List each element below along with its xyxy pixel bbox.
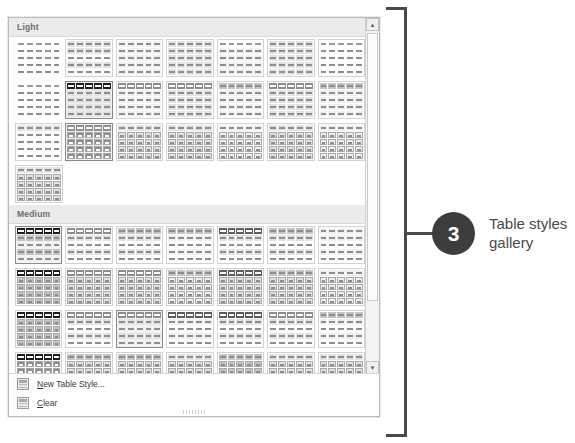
table-style-thumbnail[interactable] [15,165,63,203]
table-style-thumbnail[interactable] [318,352,365,374]
thumbnail-cell [254,132,262,138]
table-style-thumbnail[interactable] [318,81,365,119]
table-style-thumbnail[interactable] [318,226,365,264]
table-style-thumbnail[interactable] [318,310,365,348]
gallery-scroll-area[interactable]: LightMedium [9,18,365,374]
table-style-thumbnail[interactable] [217,39,264,77]
table-style-thumbnail[interactable] [267,81,314,119]
thumbnail-cell [94,242,102,248]
table-style-thumbnail[interactable] [267,39,314,77]
table-style-thumbnail[interactable] [65,352,112,374]
table-style-thumbnail[interactable] [267,310,314,348]
thumbnail-cell [228,41,236,47]
table-style-thumbnail[interactable] [217,123,264,161]
thumbnail-cell [17,153,25,159]
thumbnail-cell [278,277,286,283]
table-style-thumbnail[interactable] [15,310,62,348]
table-style-thumbnail[interactable] [15,226,62,264]
thumbnail-cell [219,153,227,159]
thumbnail-cell [118,277,126,283]
table-style-thumbnail[interactable] [116,268,163,306]
table-style-thumbnail[interactable] [65,81,112,119]
thumbnail-cell [305,284,313,290]
table-style-thumbnail[interactable] [116,39,163,77]
table-style-thumbnail[interactable] [217,81,264,119]
thumbnail-cell [287,146,295,152]
table-style-thumbnail[interactable] [217,268,264,306]
thumbnail-cell [195,270,203,276]
thumbnail-cell [204,90,212,96]
gallery-scrollbar[interactable]: ▲ ▼ [365,18,379,374]
thumbnail-cell [76,298,84,304]
table-style-thumbnail[interactable] [65,226,112,264]
table-style-thumbnail[interactable] [15,81,62,119]
scroll-up-arrow-icon[interactable]: ▲ [366,18,379,31]
table-style-thumbnail[interactable] [217,310,264,348]
table-style-thumbnail[interactable] [65,310,112,348]
thumbnail-cell [195,361,203,367]
table-style-thumbnail[interactable] [15,123,62,161]
thumbnail-cell [94,319,102,325]
resize-grip[interactable] [183,410,205,414]
thumbnail-cell [320,97,328,103]
table-style-thumbnail[interactable] [166,268,213,306]
thumbnail-cell [328,111,336,117]
thumbnail-cell [186,55,194,61]
thumbnail-cell [204,249,212,255]
thumbnail-cell [204,111,212,117]
thumbnail-cell [204,291,212,297]
table-style-thumbnail[interactable] [116,81,163,119]
table-style-thumbnail[interactable] [267,268,314,306]
thumbnail-cell [228,284,236,290]
table-style-thumbnail[interactable] [267,123,314,161]
thumbnail-cell [103,111,111,117]
table-style-thumbnail[interactable] [65,39,112,77]
table-style-thumbnail[interactable] [166,123,213,161]
thumbnail-cell [355,104,363,110]
table-style-thumbnail[interactable] [166,81,213,119]
thumbnail-cell [26,125,34,131]
table-style-thumbnail[interactable] [116,310,163,348]
table-style-thumbnail[interactable] [15,268,62,306]
thumbnail-cell [53,104,61,110]
thumbnail-cell [44,174,52,180]
table-style-thumbnail[interactable] [15,352,62,374]
thumbnail-cell [236,270,244,276]
thumbnail-cell [26,354,34,360]
thumbnail-cell [245,242,253,248]
table-style-thumbnail[interactable] [15,39,62,77]
scrollbar-thumb[interactable] [367,33,378,301]
menu-item-new-table-style[interactable]: New Table Style... [9,374,379,393]
thumbnail-cell [17,104,25,110]
thumbnail-cell [67,312,75,318]
table-style-thumbnail[interactable] [217,226,264,264]
thumbnail-cell [94,111,102,117]
table-style-thumbnail[interactable] [318,39,365,77]
table-style-thumbnail[interactable] [65,123,112,161]
table-style-thumbnail[interactable] [116,352,163,374]
table-style-thumbnail[interactable] [166,310,213,348]
thumbnail-cell [136,97,144,103]
thumbnail-cell [44,291,52,297]
table-style-thumbnail[interactable] [166,352,213,374]
thumbnail-cell [94,62,102,68]
table-style-thumbnail[interactable] [166,39,213,77]
thumbnail-cell [76,55,84,61]
thumbnail-cell [145,48,153,54]
table-style-thumbnail[interactable] [217,352,264,374]
table-style-thumbnail[interactable] [267,226,314,264]
table-style-thumbnail[interactable] [65,268,112,306]
table-style-thumbnail[interactable] [318,268,365,306]
table-style-thumbnail[interactable] [116,123,163,161]
table-style-thumbnail[interactable] [318,123,365,161]
table-style-thumbnail[interactable] [267,352,314,374]
thumbnail-cell [186,62,194,68]
table-style-thumbnail[interactable] [166,226,213,264]
menu-item-label: New Table Style... [37,379,105,389]
table-style-thumbnail[interactable] [116,226,163,264]
thumbnail-cell [204,55,212,61]
thumbnail-cell [44,181,52,187]
bracket-vertical-line [404,7,407,437]
thumbnail-cell [44,298,52,304]
thumbnail-cell [355,354,363,360]
